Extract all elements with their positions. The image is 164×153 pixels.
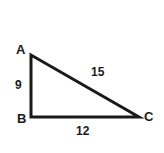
side-length-label-ab: 9 bbox=[15, 79, 22, 91]
triangle-outline bbox=[31, 55, 139, 117]
vertex-label-c: C bbox=[144, 110, 153, 123]
vertex-label-b: B bbox=[17, 112, 26, 125]
geometry-figure: A B C 9 15 12 bbox=[0, 0, 164, 153]
side-length-label-ac: 15 bbox=[91, 66, 104, 78]
vertex-label-a: A bbox=[16, 43, 25, 56]
side-length-label-bc: 12 bbox=[76, 125, 89, 137]
